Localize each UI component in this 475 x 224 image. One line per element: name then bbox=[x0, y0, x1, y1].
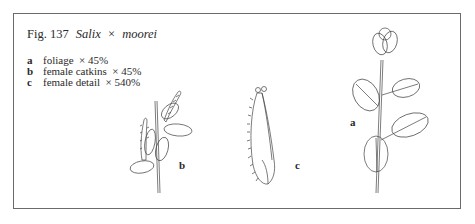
drawing-c-female-detail bbox=[247, 87, 275, 185]
drawing-b-female-catkins bbox=[129, 91, 192, 193]
drawing-label-a: a bbox=[350, 116, 356, 128]
botanical-illustrations bbox=[0, 0, 475, 224]
drawing-a-foliage bbox=[347, 28, 432, 193]
drawing-label-b: b bbox=[179, 159, 185, 171]
drawing-label-c: c bbox=[295, 159, 300, 171]
